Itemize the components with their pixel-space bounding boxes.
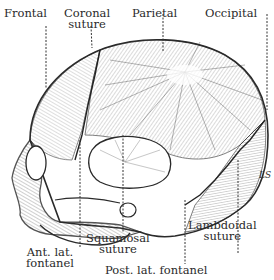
label-parietal: Parietal (132, 8, 177, 19)
label-ant-lat-fontanel: Ant. lat. fontanel (26, 247, 74, 269)
label-frontal-text: Frontal (4, 8, 47, 19)
label-coronal-suture: Coronal suture (64, 8, 110, 30)
artist-signature: LS (258, 170, 271, 180)
label-post-lat-text: Post. lat. fontanel (105, 265, 207, 276)
label-post-lat-fontanel: Post. lat. fontanel (105, 265, 207, 276)
orbit (26, 146, 46, 180)
temporal-squama (89, 136, 171, 188)
skull-diagram: LS Frontal Coronal suture Parietal Occip… (0, 0, 274, 280)
label-occipital-text: Occipital (205, 8, 257, 19)
label-lambdoidal-suture-text: suture (188, 231, 257, 242)
label-occipital: Occipital (205, 8, 257, 19)
ear-opening (120, 203, 136, 217)
label-squamosal-suture: Squamosal suture (86, 233, 150, 255)
label-squamosal-suture-text: suture (86, 244, 150, 255)
label-lambdoidal-suture: Lambdoidal suture (188, 220, 257, 242)
label-parietal-text: Parietal (132, 8, 177, 19)
label-ant-fontanel-text: fontanel (26, 258, 74, 269)
label-frontal: Frontal (4, 8, 47, 19)
label-coronal-suture-text: suture (64, 19, 110, 30)
